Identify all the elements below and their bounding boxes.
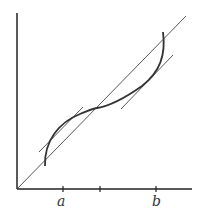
label-b: b (152, 194, 161, 208)
diagram-canvas: a b (0, 0, 203, 218)
tangent-line-lower (39, 107, 83, 152)
diagonal-line (17, 16, 186, 189)
label-a: a (57, 194, 65, 208)
graph-svg (0, 0, 203, 218)
